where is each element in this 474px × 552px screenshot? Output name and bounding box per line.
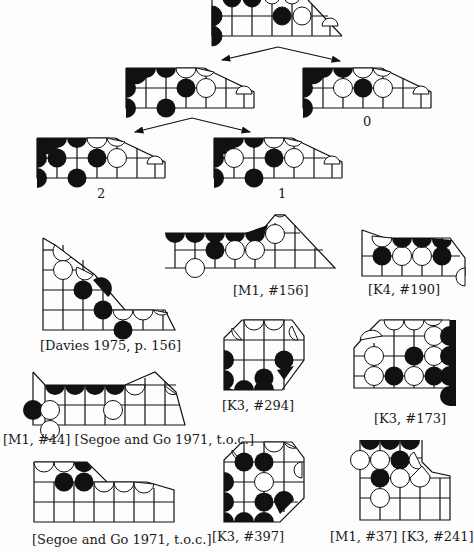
caption-m1-37: [M1, #37] [K3, #241]	[330, 529, 474, 544]
go-board-k4-190	[360, 228, 470, 283]
diagram-segoe: [Segoe and Go 1971, t.o.c.]	[32, 460, 202, 552]
go-board-k3-397	[222, 440, 322, 525]
caption-one: 1	[278, 186, 286, 201]
go-board-k3-173	[352, 318, 462, 408]
caption-davies: [Davies 1975, p. 156]	[40, 338, 181, 353]
caption-k3-397: [K3, #397]	[212, 529, 284, 544]
diagram-left-branch	[124, 66, 264, 121]
diagram-one-branch: 1	[212, 136, 352, 198]
go-board-m1-44	[0, 370, 205, 430]
caption-zero: 0	[363, 114, 371, 129]
caption-k3-294: [K3, #294]	[222, 398, 294, 413]
diagram-m1-156: [M1, #156]	[160, 213, 340, 313]
caption-k4-190: [K4, #190]	[368, 282, 440, 297]
caption-segoe: [Segoe and Go 1971, t.o.c.]	[32, 532, 212, 547]
diagram-k3-397: [K3, #397]	[222, 440, 322, 552]
diagram-k4-190: [K4, #190]	[360, 228, 470, 308]
caption-m1-44: [M1, #44] [Segoe and Go 1971, t.o.c.]	[3, 432, 254, 447]
go-board-k3-294	[222, 318, 322, 398]
caption-k3-173: [K3, #173]	[374, 411, 446, 426]
go-board-davies	[40, 235, 180, 335]
go-board-segoe	[32, 460, 202, 530]
diagram-m1-37: [M1, #37] [K3, #241]	[330, 438, 469, 552]
go-board-m1-37	[330, 438, 469, 523]
go-board-two	[35, 136, 175, 191]
go-board-m1-156	[160, 213, 340, 288]
go-board-one	[212, 136, 352, 191]
diagram-two-branch: 2	[35, 136, 175, 198]
go-board-left	[124, 66, 264, 121]
diagram-m1-44: [M1, #44] [Segoe and Go 1971, t.o.c.]	[0, 370, 205, 450]
caption-m1-156: [M1, #156]	[233, 283, 309, 298]
diagram-k3-173: [K3, #173]	[352, 318, 462, 428]
caption-two: 2	[97, 186, 105, 201]
go-board-zero	[301, 66, 441, 121]
diagram-davies: [Davies 1975, p. 156]	[40, 235, 180, 360]
diagram-k3-294: [K3, #294]	[222, 318, 322, 418]
diagram-zero-branch: 0	[301, 66, 441, 121]
